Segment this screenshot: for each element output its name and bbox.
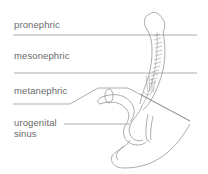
mesonephric-label: mesonephric (14, 51, 70, 61)
cloaca-structures (98, 89, 190, 168)
urogenital-label: urogenital (14, 118, 57, 128)
pronephric-label: pronephric (14, 20, 60, 30)
sinus-label: sinus (14, 129, 37, 139)
nephric-ridge (140, 12, 165, 110)
metanephric-label: metanephric (14, 86, 67, 96)
